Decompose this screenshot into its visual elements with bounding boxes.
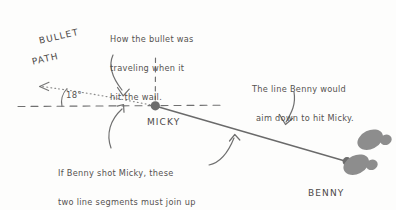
top-annotation-line-3: hit the wall. [110,93,194,103]
right-annotation-line-2: aim down to hit Micky. [252,114,354,124]
bottom-annotation-line-2: two line segments must join up [58,198,196,208]
bottom-annotation-line-1: If Benny shot Micky, these [58,169,196,179]
bottom-annotation: If Benny shot Micky, these two line segm… [58,150,196,210]
top-annotation-line-1: How the bullet was [110,35,194,45]
right-annotation: The line Benny would aim down to hit Mic… [252,66,354,143]
top-annotation: How the bullet was traveling when it hit… [110,16,194,122]
angle-label: 18° [66,90,82,100]
top-annotation-line-2: traveling when it [110,64,194,74]
diagram-canvas: BULLET PATH 18° MICKY BENNY How the bull… [0,0,396,210]
bullet-path-arrowhead [40,82,50,90]
right-annotation-line-1: The line Benny would [252,85,354,95]
benny-label: BENNY [308,188,344,199]
bottom-note-arrow-right [209,135,240,166]
